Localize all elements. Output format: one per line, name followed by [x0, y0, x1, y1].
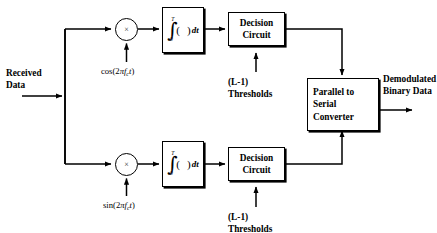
integral-sign-icon: ∫T0	[167, 20, 176, 40]
cos-carrier-prefix: cos(2	[101, 66, 120, 76]
integral-sign-icon: ∫T0	[167, 154, 176, 174]
received-data-label: Received Data	[6, 67, 42, 92]
top-integral-differential: dt	[192, 25, 199, 35]
multiply-icon: ×	[124, 160, 129, 169]
demodulated-output-line1: Demodulated	[383, 74, 436, 84]
top-integral-upper-limit: T	[171, 16, 174, 22]
top-threshold-label: (L-1) Thresholds	[228, 76, 272, 101]
top-threshold-line1: (L-1)	[228, 77, 248, 87]
block-diagram-canvas: Received Data × cos(2πfct) ∫T0 ( ) dt De…	[0, 0, 437, 233]
bottom-threshold-line1: (L-1)	[228, 212, 248, 222]
converter-line2: Serial	[313, 98, 336, 110]
bottom-integrator-block[interactable]: ∫T0 ( ) dt	[162, 141, 204, 187]
cos-carrier-suffix: )	[131, 66, 134, 76]
top-decision-circuit-block[interactable]: Decision Circuit	[228, 12, 285, 46]
bottom-integral-differential: dt	[192, 159, 199, 169]
converter-line3: Converter	[313, 111, 354, 123]
bottom-threshold-line2: Thresholds	[228, 224, 272, 233]
top-threshold-line2: Thresholds	[228, 89, 272, 99]
demodulated-output-label: Demodulated Binary Data	[383, 73, 436, 98]
cos-carrier-label: cos(2πfct)	[101, 66, 134, 77]
bottom-integral-upper-limit: T	[171, 150, 174, 156]
top-integral-expression: ∫T0 ( ) dt	[167, 20, 199, 40]
wire-top-decision-to-converter	[285, 29, 342, 75]
top-integrator-block[interactable]: ∫T0 ( ) dt	[162, 7, 204, 53]
sin-carrier-label: sin(2πfct)	[103, 200, 135, 211]
bottom-threshold-label: (L-1) Thresholds	[228, 211, 272, 233]
bottom-decision-line1: Decision	[240, 152, 274, 164]
top-multiplier[interactable]: ×	[115, 18, 138, 41]
received-data-line1: Received	[6, 68, 42, 78]
multiply-icon: ×	[124, 25, 129, 34]
bottom-multiplier[interactable]: ×	[115, 153, 138, 176]
bottom-integral-lower-limit: 0	[170, 170, 173, 176]
top-decision-line1: Decision	[240, 17, 274, 29]
parallel-to-serial-converter-block[interactable]: Parallel to Serial Converter	[307, 78, 379, 131]
top-integral-integrand: ( )	[176, 24, 193, 36]
bottom-decision-circuit-block[interactable]: Decision Circuit	[228, 147, 285, 181]
bottom-decision-line2: Circuit	[242, 164, 270, 176]
top-decision-line2: Circuit	[242, 29, 270, 41]
sin-carrier-prefix: sin(2	[103, 200, 120, 210]
demodulated-output-line2: Binary Data	[383, 86, 432, 96]
top-integral-lower-limit: 0	[170, 36, 173, 42]
converter-line1: Parallel to	[313, 86, 354, 98]
bottom-integral-integrand: ( )	[176, 158, 193, 170]
sin-carrier-suffix: )	[132, 200, 135, 210]
wire-bottom-decision-to-converter	[285, 131, 342, 164]
received-data-line2: Data	[6, 80, 25, 90]
bottom-integral-expression: ∫T0 ( ) dt	[167, 154, 199, 174]
